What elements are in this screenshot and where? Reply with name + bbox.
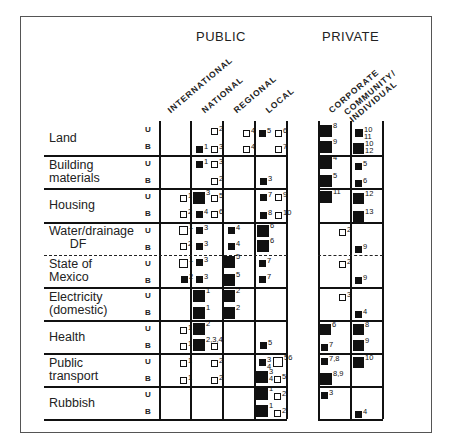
filled-square-marker (181, 276, 188, 283)
marker-footnote: 6 (270, 237, 274, 244)
row-divider (44, 353, 287, 355)
filled-square-marker (260, 194, 267, 201)
marker-footnote: 1 (189, 256, 193, 263)
marker-footnote: 9 (363, 243, 367, 250)
marker-footnote: 10 (283, 209, 291, 216)
marker-footnote: 7 (267, 257, 271, 264)
open-square-marker (180, 195, 187, 202)
marker-footnote: 3 (204, 224, 208, 231)
income-sublabel-u: U (145, 226, 151, 235)
marker-footnote: 5 (236, 253, 240, 260)
marker-footnote: 6 (363, 177, 367, 184)
filled-square-marker (223, 307, 235, 319)
marker-footnote: 4 (236, 240, 240, 247)
filled-square-marker (256, 371, 268, 383)
marker-footnote: 4 (251, 127, 255, 134)
marker-footnote: 2 (219, 357, 223, 364)
open-square-marker (180, 377, 187, 384)
filled-square-marker (321, 358, 328, 365)
marker-footnote: 1 (206, 304, 210, 311)
marker-footnote: 5 (363, 160, 367, 167)
income-sublabel-u: U (145, 159, 151, 168)
income-sublabel-b: B (145, 276, 151, 285)
grid-line (286, 121, 288, 419)
row-divider (318, 287, 383, 289)
marker-footnote: 5 (333, 172, 337, 179)
row-divider (318, 320, 383, 322)
row-label-housing: Housing (49, 199, 95, 212)
filled-square-marker (320, 191, 332, 203)
filled-square-marker (353, 193, 364, 204)
filled-square-marker (223, 256, 235, 268)
row-divider (44, 320, 287, 322)
marker-footnote: 2 (188, 240, 192, 247)
filled-square-marker (321, 392, 328, 399)
marker-footnote: 3 4 (269, 368, 273, 382)
marker-footnote: 6 (283, 127, 287, 134)
income-sublabel-b: B (145, 142, 151, 151)
income-sublabel-b: B (145, 374, 151, 383)
open-square-marker (274, 393, 281, 400)
open-square-marker (275, 194, 282, 201)
marker-footnote: 2 (282, 407, 286, 414)
filled-square-marker (260, 178, 267, 185)
filled-square-marker (196, 276, 203, 283)
filled-square-marker (196, 161, 203, 168)
income-sublabel-b: B (145, 209, 151, 218)
filled-square-marker (355, 246, 362, 253)
filled-square-marker (355, 180, 362, 187)
marker-footnote: 9 (363, 274, 367, 281)
income-sublabel-u: U (145, 324, 151, 333)
marker-footnote: 4 (363, 308, 367, 315)
marker-footnote: 5 (219, 192, 223, 199)
marker-footnote: 3 (347, 291, 351, 298)
open-square-marker (274, 410, 281, 417)
open-square-marker (211, 360, 218, 367)
open-square-marker (211, 343, 218, 350)
income-sublabel-u: U (145, 291, 151, 300)
marker-footnote: 1 (204, 143, 208, 150)
marker-footnote: 2 (219, 374, 223, 381)
marker-footnote: 1 (188, 340, 192, 347)
row-label-building-materials: Building materials (49, 159, 100, 185)
marker-footnote: 1 (269, 385, 273, 392)
filled-square-marker (196, 259, 203, 266)
grid-line (350, 121, 352, 419)
open-square-marker (274, 376, 281, 383)
marker-footnote: 2 (236, 287, 240, 294)
filled-square-marker (353, 357, 364, 368)
open-square-marker (180, 243, 187, 250)
grid-line (382, 121, 384, 419)
open-square-marker (339, 261, 346, 268)
row-divider-dashed (318, 255, 383, 256)
row-divider (44, 386, 287, 388)
marker-footnote: 1 (206, 287, 210, 294)
open-square-marker (273, 357, 283, 367)
marker-footnote: 4 (204, 208, 208, 215)
open-square-marker (275, 212, 282, 219)
open-square-marker (211, 161, 218, 168)
filled-square-marker (259, 276, 266, 283)
marker-footnote: 2 (236, 304, 240, 311)
marker-footnote: 7 (283, 143, 287, 150)
marker-footnote: 13 (365, 208, 373, 215)
open-square-marker (211, 178, 218, 185)
filled-square-marker (196, 227, 203, 234)
income-sublabel-u: U (145, 259, 151, 268)
filled-square-marker (193, 307, 205, 319)
row-label-state-of-mexico: State of Mexico (49, 258, 92, 284)
row-label-water-drainage-df: Water/drainage DF (49, 225, 134, 251)
open-square-marker (275, 130, 282, 137)
row-label-health: Health (49, 331, 85, 344)
row-label-land: Land (49, 132, 77, 145)
marker-footnote: 2 (189, 273, 193, 280)
marker-footnote: 8 (333, 122, 337, 129)
marker-footnote: 7,8 (329, 355, 339, 362)
income-sublabel-b: B (145, 243, 151, 252)
marker-footnote: 2 (347, 226, 351, 233)
filled-square-marker (355, 411, 362, 418)
marker-footnote: 5 (268, 339, 272, 346)
income-sublabel-b: B (145, 341, 151, 350)
filled-square-marker (353, 340, 364, 351)
filled-square-marker (196, 243, 203, 250)
